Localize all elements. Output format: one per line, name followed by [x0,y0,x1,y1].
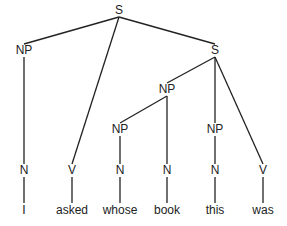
tree-edge [215,57,263,164]
node-label: V [68,164,76,176]
tree-edge [24,17,119,44]
node-label: N [116,164,125,176]
node-label: NP [16,44,33,56]
node-label: NP [159,83,176,95]
node-label: NP [207,123,224,135]
node-label: NP [112,123,129,135]
tree-edges [0,0,287,226]
syntax-tree-diagram: SNPSNPNPNPNVNNNVIaskedwhosebookthiswas [0,0,287,226]
tree-edge [167,57,215,83]
word-label: was [252,204,273,216]
node-label: S [115,4,123,16]
word-label: this [206,204,225,216]
node-label: V [259,164,267,176]
node-label: N [20,164,29,176]
word-label: whose [103,204,138,216]
word-label: asked [56,204,88,216]
tree-edge [120,96,167,123]
tree-edge [72,17,119,164]
word-label: book [154,204,180,216]
node-label: N [163,164,172,176]
node-label: S [211,44,219,56]
tree-edge [119,17,215,44]
node-label: N [211,164,220,176]
word-label: I [22,204,25,216]
